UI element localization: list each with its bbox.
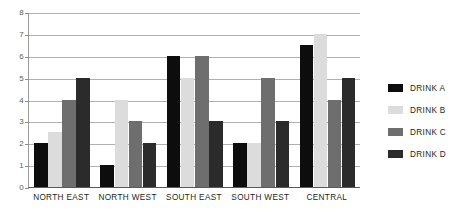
bar	[247, 143, 261, 187]
legend-label: DRINK B	[410, 106, 446, 115]
bar	[34, 143, 48, 187]
legend-swatch-icon	[388, 106, 403, 114]
x-axis-label: SOUTH EAST	[161, 193, 227, 202]
x-axis-label: SOUTH WEST	[227, 193, 293, 202]
y-axis-tick-label: 6	[4, 53, 24, 61]
legend-item[interactable]: DRINK D	[388, 150, 459, 158]
bar	[100, 165, 114, 187]
bar	[300, 45, 314, 187]
bar	[62, 100, 76, 188]
bar	[276, 121, 290, 187]
bar	[48, 132, 62, 187]
bar	[209, 121, 223, 187]
x-axis-label: NORTH WEST	[94, 193, 160, 202]
bar	[167, 56, 181, 187]
legend-swatch-icon	[388, 150, 403, 158]
chart-legend: DRINK ADRINK BDRINK CDRINK D	[388, 84, 459, 158]
y-axis-tick-label: 5	[4, 75, 24, 83]
y-axis-tick-label: 8	[4, 9, 24, 17]
legend-label: DRINK A	[410, 84, 445, 93]
legend-item[interactable]: DRINK C	[388, 128, 459, 136]
y-axis-tick-label: 7	[4, 31, 24, 39]
y-axis-tick-label: 4	[4, 97, 24, 105]
y-axis-tick-label: 1	[4, 162, 24, 170]
bar	[181, 78, 195, 187]
legend-item[interactable]: DRINK A	[388, 84, 459, 92]
legend-swatch-icon	[388, 84, 403, 92]
bar	[233, 143, 247, 187]
y-axis: 012345678	[0, 0, 24, 223]
y-axis-tick-label: 0	[4, 184, 24, 192]
bar-chart: 012345678 NORTH EASTNORTH WESTSOUTH EAST…	[0, 0, 459, 223]
bar	[76, 78, 90, 187]
x-axis-label: CENTRAL	[294, 193, 360, 202]
bar	[261, 78, 275, 187]
legend-item[interactable]: DRINK B	[388, 106, 459, 114]
bar	[195, 56, 209, 187]
x-axis-label: NORTH EAST	[28, 193, 94, 202]
legend-label: DRINK D	[410, 150, 446, 159]
y-axis-tick-label: 3	[4, 118, 24, 126]
y-axis-tick-label: 2	[4, 140, 24, 148]
bar	[143, 143, 157, 187]
bar	[115, 100, 129, 188]
bars-layer	[29, 13, 360, 187]
legend-swatch-icon	[388, 128, 403, 136]
bar	[314, 34, 328, 187]
bar	[328, 100, 342, 188]
plot-area	[28, 13, 360, 188]
legend-label: DRINK C	[410, 128, 446, 137]
bar	[342, 78, 356, 187]
bar	[129, 121, 143, 187]
y-axis-tick	[25, 188, 29, 189]
